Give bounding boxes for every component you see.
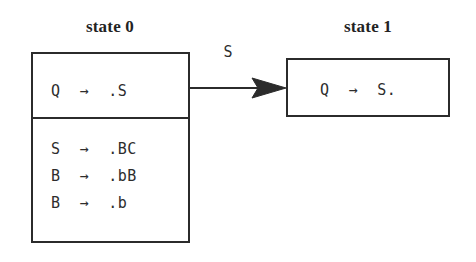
state-0-kernel-item-list: Q → .S bbox=[33, 54, 188, 117]
item-row: S → .BC bbox=[33, 142, 206, 157]
state-1-box: Q → S. bbox=[286, 58, 450, 117]
state-0-caption: state 0 bbox=[40, 18, 180, 35]
state-1-caption: state 1 bbox=[298, 18, 438, 35]
item-row: B → .bB bbox=[33, 169, 206, 184]
item-row: Q → .S bbox=[33, 84, 206, 99]
state-0-box: Q → .S S → .BC B → .bB B → .b bbox=[31, 52, 190, 243]
state-0-closure-compartment: S → .BC B → .bB B → .b bbox=[33, 119, 188, 245]
item-row: B → .b bbox=[33, 196, 206, 211]
transition-arrow-icon bbox=[186, 70, 290, 106]
state-0-kernel-compartment: Q → .S bbox=[33, 54, 188, 119]
item-row: Q → S. bbox=[288, 83, 476, 98]
transition-label: S bbox=[206, 45, 250, 60]
diagram-canvas: state 0 state 1 Q → .S S → .BC B → .bB B… bbox=[0, 0, 476, 262]
